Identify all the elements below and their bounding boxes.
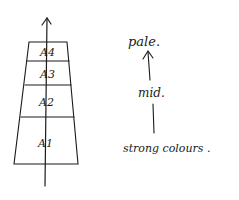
legend-pale: pale. bbox=[128, 34, 160, 49]
legend-arrow-shaft bbox=[148, 52, 150, 80]
layer-label-a1: A1 bbox=[37, 137, 53, 150]
colour-legend: pale. mid. strong colours . bbox=[123, 34, 210, 155]
layer-label-a4: A4 bbox=[39, 46, 55, 59]
legend-strong-colours: strong colours . bbox=[123, 142, 210, 155]
layer-label-a3: A3 bbox=[39, 68, 55, 81]
legend-connector-line bbox=[153, 104, 154, 133]
legend-mid: mid. bbox=[138, 86, 165, 100]
layer-label-a2: A2 bbox=[38, 96, 54, 109]
diagram-canvas: A4 A3 A2 A1 pale. mid. strong colours . bbox=[0, 0, 239, 200]
